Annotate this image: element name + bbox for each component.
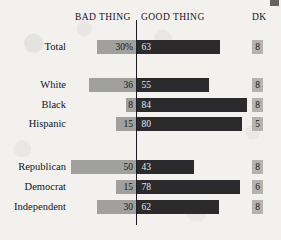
bar-value-bad-thing: 8	[128, 98, 133, 112]
bar-value-bad-thing: 36	[123, 78, 133, 92]
table-row: Democrat15786	[0, 180, 281, 194]
row-label: Independent	[0, 200, 66, 214]
column-header-dk: DK	[252, 12, 267, 22]
dk-value: 8	[252, 98, 263, 112]
table-row: Total30%638	[0, 40, 281, 54]
bar-value-bad-thing: 30%	[116, 40, 133, 54]
bar-value-bad-thing: 15	[123, 117, 133, 131]
bar-good-thing: 84	[137, 98, 247, 112]
bar-value-good-thing: 43	[141, 160, 151, 174]
bar-value-good-thing: 55	[141, 78, 151, 92]
dk-value: 8	[252, 78, 263, 92]
dk-value: 8	[252, 40, 263, 54]
bar-value-good-thing: 78	[141, 180, 151, 194]
bar-good-thing: 55	[137, 78, 209, 92]
bar-bad-thing: 30%	[97, 40, 136, 54]
row-label: Democrat	[0, 180, 66, 194]
bar-value-good-thing: 84	[141, 98, 151, 112]
row-label: Republican	[0, 160, 66, 174]
table-row: Black8848	[0, 98, 281, 112]
bar-good-thing: 80	[137, 117, 242, 131]
row-label: Hispanic	[0, 117, 66, 131]
bar-value-good-thing: 62	[141, 200, 151, 214]
bar-value-bad-thing: 30	[123, 200, 133, 214]
table-row: Republican50438	[0, 160, 281, 174]
bar-bad-thing: 30	[97, 200, 136, 214]
table-row: Hispanic15805	[0, 117, 281, 131]
row-label: Total	[0, 40, 66, 54]
bar-good-thing: 78	[137, 180, 239, 194]
bar-bad-thing: 15	[116, 180, 136, 194]
bar-value-good-thing: 63	[141, 40, 151, 54]
table-row: White36558	[0, 78, 281, 92]
dk-value: 6	[252, 180, 263, 194]
dk-value: 5	[252, 117, 263, 131]
row-label: Black	[0, 98, 66, 112]
diverging-bar-chart: BAD THING GOOD THING DK Total30%638White…	[0, 0, 281, 240]
bar-bad-thing: 50	[71, 160, 137, 174]
bar-bad-thing: 15	[116, 117, 136, 131]
bar-bad-thing: 8	[126, 98, 136, 112]
bar-good-thing: 43	[137, 160, 193, 174]
table-row: Independent30628	[0, 200, 281, 214]
bar-good-thing: 63	[137, 40, 220, 54]
bar-bad-thing: 36	[89, 78, 136, 92]
dk-value: 8	[252, 200, 263, 214]
bar-value-good-thing: 80	[141, 117, 151, 131]
column-header-good-thing: GOOD THING	[141, 12, 205, 22]
bar-good-thing: 62	[137, 200, 218, 214]
row-label: White	[0, 78, 66, 92]
bar-value-bad-thing: 15	[123, 180, 133, 194]
bar-value-bad-thing: 50	[124, 160, 134, 174]
column-header-bad-thing: BAD THING	[75, 12, 131, 22]
column-header-row: BAD THING GOOD THING DK	[0, 12, 281, 26]
dk-value: 8	[252, 160, 263, 174]
